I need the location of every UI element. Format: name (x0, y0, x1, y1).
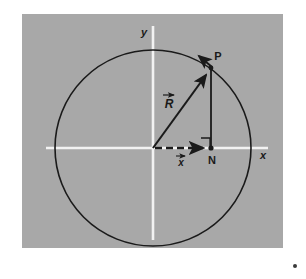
point-n-label: N (208, 154, 216, 166)
corner-dot (293, 264, 297, 268)
vector-r-label-group: R (163, 95, 174, 111)
point-p-label: P (214, 50, 221, 62)
vector-x-label-group: x (176, 156, 185, 168)
y-axis-label: y (140, 26, 148, 38)
vector-r-label: R (165, 97, 174, 111)
vector-diagram: y x P N R x (0, 0, 306, 279)
point-p-dot (209, 66, 214, 71)
point-n-dot (208, 145, 213, 150)
figure-container: y x P N R x (0, 0, 306, 279)
vector-x-label: x (177, 157, 184, 168)
x-axis-label: x (259, 149, 267, 161)
